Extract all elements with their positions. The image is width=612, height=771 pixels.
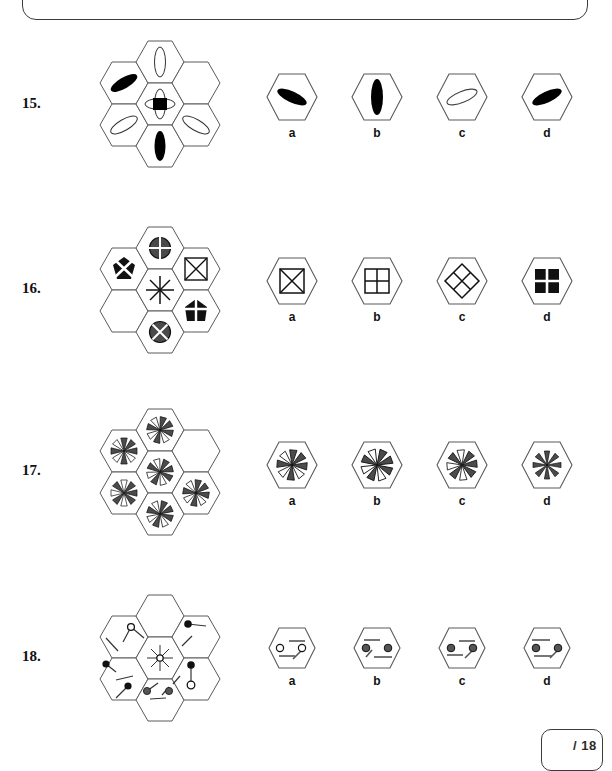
option-15-a[interactable] [265, 72, 319, 122]
option-17-c[interactable] [435, 440, 489, 490]
option-16-a[interactable] [265, 256, 319, 306]
matrix-cluster-17 [78, 396, 228, 536]
option-label-18-c: c [442, 674, 482, 688]
option-15-c[interactable] [435, 72, 489, 122]
option-18-c[interactable] [435, 626, 489, 670]
option-label-18-a: a [272, 674, 312, 688]
option-18-d[interactable] [520, 626, 574, 670]
option-17-d[interactable] [520, 440, 574, 490]
option-label-17-a: a [272, 494, 312, 508]
question-number-17: 17. [22, 462, 41, 479]
score-total-label: / 18 [573, 738, 597, 753]
option-label-16-a: a [272, 310, 312, 324]
option-15-d[interactable] [520, 72, 574, 122]
top-panel-border [22, 0, 588, 20]
option-label-16-c: c [442, 310, 482, 324]
option-label-16-b: b [357, 310, 397, 324]
matrix-cluster-18 [78, 582, 228, 722]
matrix-cluster-15 [78, 28, 228, 168]
option-label-18-d: d [527, 674, 567, 688]
option-label-15-a: a [272, 126, 312, 140]
option-18-b[interactable] [350, 626, 404, 670]
option-label-16-d: d [527, 310, 567, 324]
option-16-c[interactable] [435, 256, 489, 306]
option-label-17-d: d [527, 494, 567, 508]
option-label-15-c: c [442, 126, 482, 140]
question-number-15: 15. [22, 95, 41, 112]
option-label-17-c: c [442, 494, 482, 508]
option-label-15-b: b [357, 126, 397, 140]
option-label-17-b: b [357, 494, 397, 508]
option-label-18-b: b [357, 674, 397, 688]
question-number-18: 18. [22, 648, 41, 665]
option-16-d[interactable] [520, 256, 574, 306]
option-18-a[interactable] [265, 626, 319, 670]
option-17-a[interactable] [265, 440, 319, 490]
matrix-cluster-16 [78, 214, 228, 354]
option-16-b[interactable] [350, 256, 404, 306]
option-17-b[interactable] [350, 440, 404, 490]
option-label-15-d: d [527, 126, 567, 140]
option-15-b[interactable] [350, 72, 404, 122]
question-number-16: 16. [22, 280, 41, 297]
